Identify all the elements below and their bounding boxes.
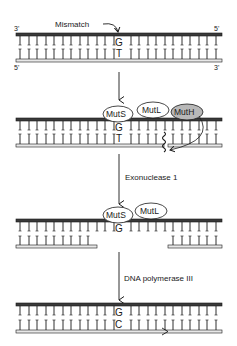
panel1-top-right-end-label: 5' <box>214 25 219 32</box>
panel-resynthesis: G C <box>16 303 222 335</box>
step2-label: Exonuclease 1 <box>125 173 178 182</box>
panel4-top-strand <box>16 303 222 306</box>
panel3-top-base: G <box>115 223 123 234</box>
panel1-bottom-strand <box>16 59 222 62</box>
muts-label: MutS <box>106 109 126 119</box>
mutl-label: MutL <box>142 105 161 115</box>
panel4-top-base: G <box>115 307 123 318</box>
mutl-label: MutL <box>140 206 159 216</box>
step3-label: DNA polymerase III <box>124 274 193 283</box>
panel2-bottom-base: T <box>116 133 122 144</box>
panel2-top-base: G <box>115 122 123 133</box>
panel1-top-strand <box>16 33 222 36</box>
panel3-bottom-strand-right <box>168 245 222 248</box>
panel3-bottom-strand-left <box>16 245 97 248</box>
panel4-bottom-base: C <box>115 319 122 330</box>
panel-initial-mismatch: Mismatch 3' 5' 5' 3' G T <box>14 20 222 71</box>
mismatch-label: Mismatch <box>55 20 89 29</box>
panel1-bottom-base: T <box>116 48 122 59</box>
panel-excision: MutS MutL G <box>16 203 222 248</box>
panel2-bottom-strand-left <box>16 144 164 147</box>
muts-label: MutS <box>106 210 126 220</box>
nick-squiggle-icon <box>163 132 166 152</box>
panel2-bottom-strand-right <box>168 144 222 147</box>
panel4-bottom-strand <box>16 330 222 333</box>
mismatch-pointer-arrow <box>103 24 118 32</box>
mismatch-repair-diagram: Mismatch 3' 5' 5' 3' G T MutS MutL MutH … <box>0 0 237 346</box>
panel3-bottom-ticks <box>19 236 218 245</box>
panel1-top-base: G <box>115 37 123 48</box>
panel1-top-left-end-label: 3' <box>14 25 19 32</box>
panel1-bottom-left-end-label: 5' <box>14 64 19 71</box>
panel1-bottom-right-end-label: 3' <box>214 64 219 71</box>
panel-mut-complex-binding: MutS MutL MutH G T <box>16 102 222 152</box>
muth-label: MutH <box>174 107 194 117</box>
